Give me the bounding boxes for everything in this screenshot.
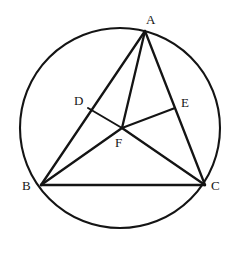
segment-ab (41, 31, 145, 185)
circumcircle (20, 28, 220, 228)
point-label-b: B (22, 179, 31, 192)
segment-ef (122, 108, 175, 128)
geometry-canvas (0, 0, 238, 253)
segment-bf (41, 128, 122, 185)
segment-df (88, 108, 122, 128)
point-label-c: C (211, 179, 220, 192)
point-label-e: E (181, 96, 189, 109)
segment-cf (122, 128, 205, 185)
segment-af (122, 31, 145, 128)
point-label-d: D (74, 94, 83, 107)
geometry-figure: A B C D E F (0, 0, 238, 253)
point-label-a: A (146, 13, 155, 26)
point-label-f: F (115, 136, 122, 149)
